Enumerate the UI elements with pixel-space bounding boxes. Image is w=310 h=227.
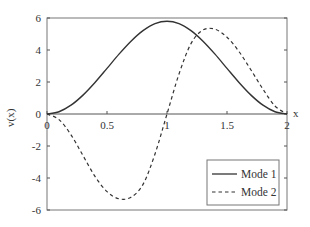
x-tick-label: 1.5 [220,119,234,131]
legend-label-mode-1: Mode 1 [241,168,277,180]
y-tick-label: -6 [32,204,42,216]
mode-shape-chart: 00.511.52 -6-4-20246 x v(x) Mode 1 Mode … [0,0,310,227]
legend-box [207,160,279,205]
y-axis-label: v(x) [4,108,17,127]
legend: Mode 1 Mode 2 [207,160,279,205]
y-tick-label: 6 [36,12,42,24]
y-tick-label: -4 [32,172,42,184]
legend-label-mode-2: Mode 2 [241,186,277,198]
y-tick-label: 4 [36,44,42,56]
series-line-mode-1 [47,21,287,114]
x-tick-label: 2 [284,119,290,131]
x-axis-label: x [293,107,299,119]
x-tick-label: 0.5 [100,119,114,131]
x-tick-label: 1 [164,119,170,131]
x-tick-label: 0 [44,119,50,131]
y-tick-label: 0 [36,108,42,120]
y-tick-label: -2 [32,140,41,152]
y-tick-label: 2 [36,76,42,88]
